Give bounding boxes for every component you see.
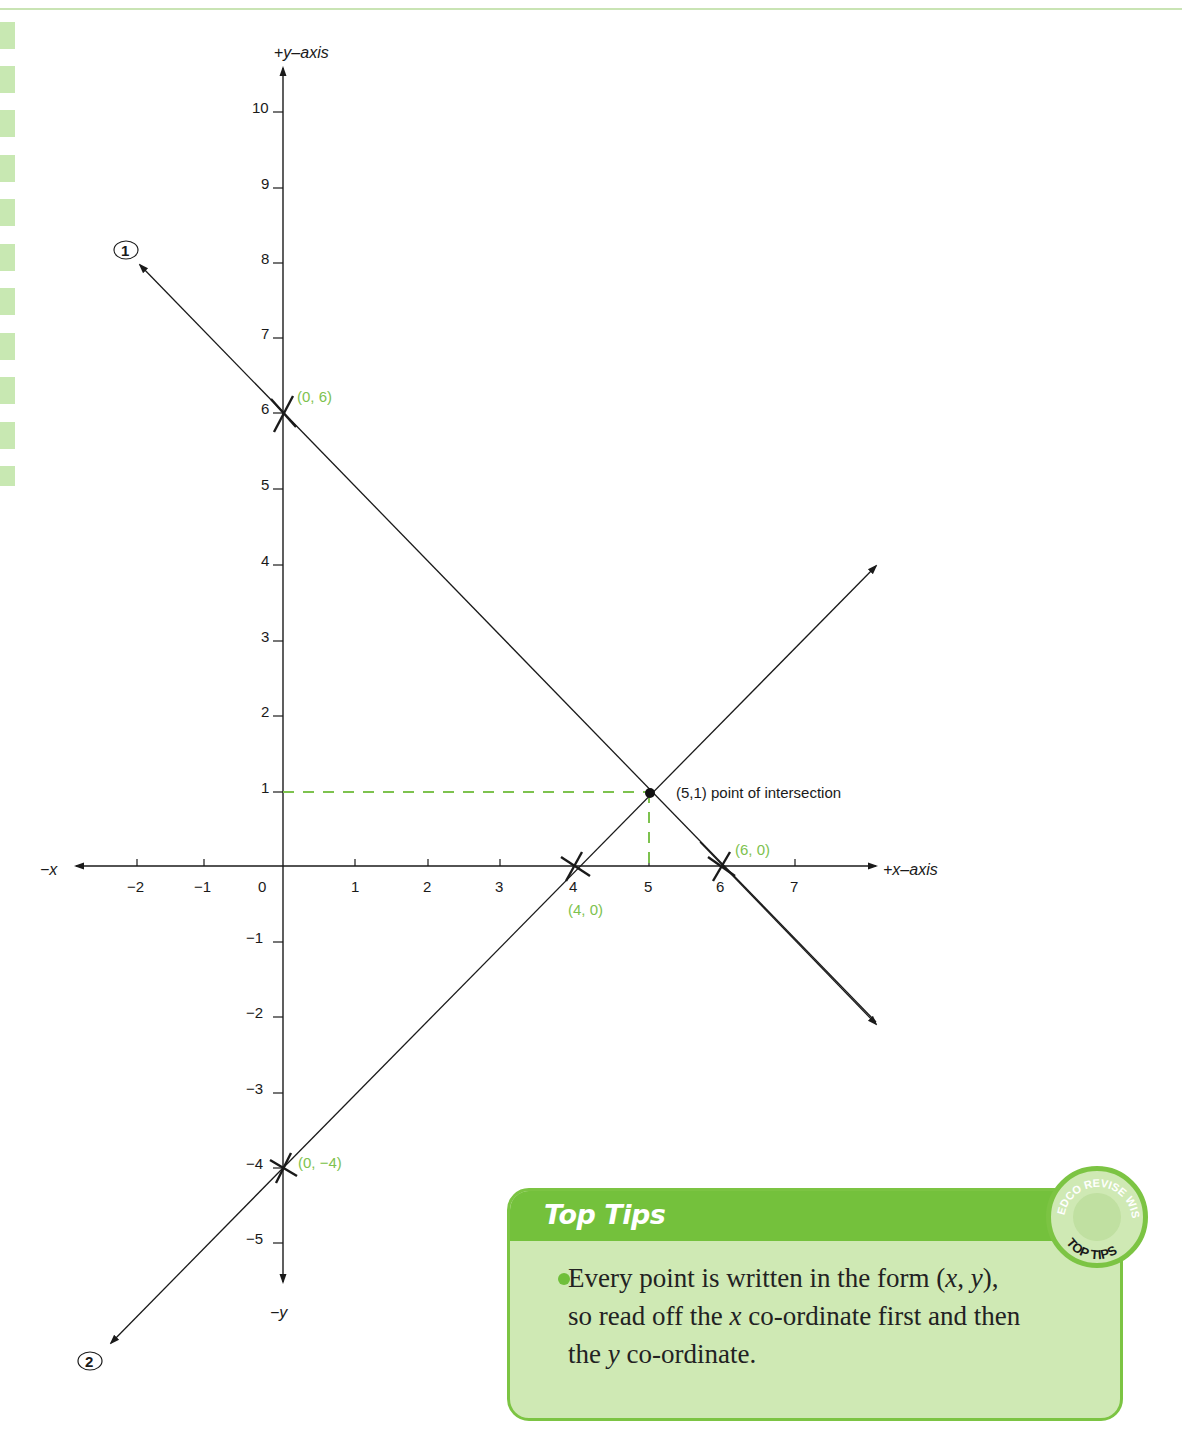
svg-text:−3: −3: [246, 1080, 263, 1097]
top-tips-header: Top Tips: [510, 1191, 1120, 1241]
x-ticks: [137, 859, 795, 866]
line-1-marker: 1: [114, 241, 138, 259]
top-tips-box: Top Tips Every point is written in the f…: [507, 1188, 1123, 1421]
svg-text:7: 7: [790, 878, 798, 895]
x-axis-label: +x–axis: [883, 861, 938, 878]
top-tips-body: Every point is written in the form (x, y…: [510, 1241, 1120, 1373]
svg-text:6: 6: [261, 400, 269, 417]
svg-text:2: 2: [423, 878, 431, 895]
x-tick-labels: −2 −1 0 1 2 3 4 5 6 7: [127, 878, 798, 895]
svg-text:7: 7: [261, 325, 269, 342]
svg-text:−1: −1: [194, 878, 211, 895]
point-label-0-6: (0, 6): [297, 388, 332, 405]
svg-text:10: 10: [252, 99, 269, 116]
y-ticks: [273, 112, 283, 1243]
svg-text:−5: −5: [246, 1230, 263, 1247]
top-tips-title: Top Tips: [544, 1199, 665, 1230]
point-label-0-neg4: (0, −4): [298, 1154, 342, 1171]
line-1: [140, 265, 876, 1022]
intercept-crosses: [270, 396, 735, 1183]
svg-text:5: 5: [261, 476, 269, 493]
point-label-6-0: (6, 0): [735, 841, 770, 858]
svg-text:4: 4: [261, 552, 269, 569]
svg-text:1: 1: [121, 242, 129, 259]
y-axis-label: +y–axis: [274, 44, 329, 61]
bullet-icon: [558, 1273, 570, 1285]
point-label-4-0: (4, 0): [568, 901, 603, 918]
x-negative-label: −x: [40, 861, 58, 878]
svg-text:0: 0: [258, 878, 266, 895]
svg-text:5: 5: [644, 878, 652, 895]
svg-text:3: 3: [261, 628, 269, 645]
svg-text:−2: −2: [127, 878, 144, 895]
svg-text:3: 3: [495, 878, 503, 895]
svg-text:9: 9: [261, 175, 269, 192]
y-negative-label: −y: [270, 1304, 288, 1321]
intersection-point: [645, 788, 655, 798]
intersection-guides: [283, 792, 649, 866]
y-tick-labels: 10 9 8 7 6 5 4 3 2 1 −1 −2 −3 −4 −5: [246, 99, 269, 1247]
svg-text:−4: −4: [246, 1155, 263, 1172]
revise-wise-badge-icon: EDCO REVISE WISE TOP TIPS: [1046, 1166, 1148, 1268]
svg-text:1: 1: [351, 878, 359, 895]
intersection-label: (5,1) point of intersection: [676, 784, 841, 801]
svg-text:4: 4: [569, 878, 577, 895]
svg-text:8: 8: [261, 250, 269, 267]
svg-text:−1: −1: [246, 929, 263, 946]
line-2: [283, 566, 876, 1168]
svg-text:6: 6: [716, 878, 724, 895]
svg-text:1: 1: [261, 779, 269, 796]
svg-text:2: 2: [261, 703, 269, 720]
svg-text:2: 2: [85, 1353, 93, 1370]
line-2-marker: 2: [78, 1352, 102, 1370]
svg-text:−2: −2: [246, 1004, 263, 1021]
tip-text: Every point is written in the form (x, y…: [568, 1259, 1080, 1373]
